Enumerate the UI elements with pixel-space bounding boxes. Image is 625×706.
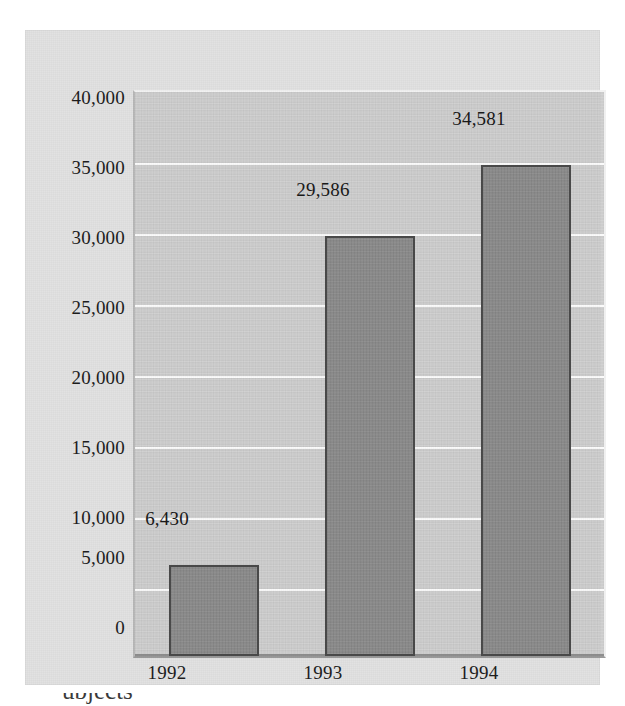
y-axis-tick: 25,000 [72, 297, 125, 319]
bar-1994[interactable] [481, 165, 571, 656]
bar-1993[interactable] [325, 236, 415, 656]
x-axis-tick-1992: 1992 [122, 662, 212, 684]
y-axis-tick: 15,000 [72, 437, 125, 459]
y-axis-tick: 10,000 [72, 507, 125, 529]
scanned-page: 40,000 35,000 30,000 25,000 20,000 15,00… [0, 0, 625, 706]
chart-frame: 40,000 35,000 30,000 25,000 20,000 15,00… [25, 30, 600, 685]
page-caption-sliver: ubjects [0, 693, 625, 706]
bar-value-label-1992: 6,430 [122, 508, 212, 530]
y-axis-tick: 30,000 [72, 227, 125, 249]
x-axis-tick-1994: 1994 [434, 662, 524, 684]
y-axis-tick: 40,000 [72, 87, 125, 109]
bar-value-label-1993: 29,586 [278, 179, 368, 201]
caption-partial-text: ubjects [62, 693, 133, 705]
y-axis-tick: 35,000 [72, 157, 125, 179]
x-axis-tick-1993: 1993 [278, 662, 368, 684]
y-axis-tick: 0 [115, 617, 125, 639]
y-axis-tick-labels: 40,000 35,000 30,000 25,000 20,000 15,00… [45, 30, 125, 685]
y-axis-tick: 5,000 [81, 547, 125, 569]
plot-area [133, 90, 606, 658]
y-axis-tick: 20,000 [72, 367, 125, 389]
bar-value-label-1994: 34,581 [434, 108, 524, 130]
bar-1992[interactable] [169, 565, 259, 656]
